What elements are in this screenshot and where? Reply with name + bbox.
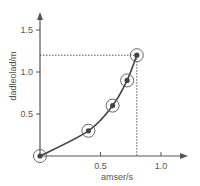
chart: 0.51.00.51.01.5 amser/s dadleolad/m <box>0 0 200 186</box>
y-tick-label: 0.5 <box>20 109 33 119</box>
data-curve <box>40 55 137 156</box>
data-point <box>82 124 95 137</box>
data-point <box>130 49 143 62</box>
marker-dot-icon <box>86 128 91 133</box>
x-axis-label: amser/s <box>101 172 134 182</box>
x-tick-label: 0.5 <box>94 161 107 171</box>
x-tick-label: 1.0 <box>155 161 168 171</box>
marker-dot-icon <box>110 103 115 108</box>
axes <box>37 12 188 159</box>
y-tick-label: 1.0 <box>20 67 33 77</box>
y-axis-label: dadleolad/m <box>8 51 18 100</box>
marker-dot-icon <box>125 78 130 83</box>
data-markers <box>34 49 144 163</box>
marker-dot-icon <box>134 53 139 58</box>
y-tick-label: 1.5 <box>20 25 33 35</box>
data-point <box>121 74 134 87</box>
marker-dot-icon <box>37 153 42 158</box>
dotted-guides <box>40 55 137 156</box>
ticks: 0.51.00.51.01.5 <box>20 25 167 171</box>
y-axis-arrow-icon <box>37 12 43 20</box>
x-axis-arrow-icon <box>180 153 188 159</box>
data-point <box>106 99 119 112</box>
